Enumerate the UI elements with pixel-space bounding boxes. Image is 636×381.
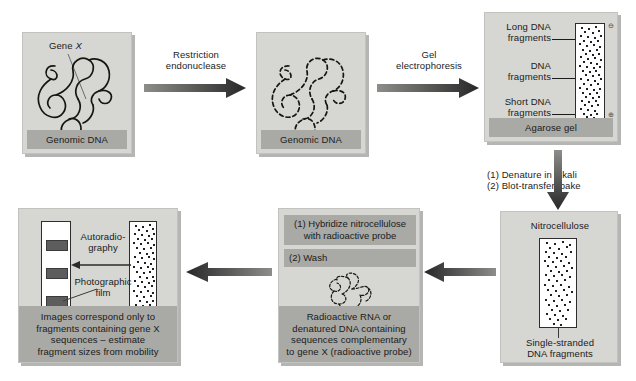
panel-agarose-gel-caption: Agarose gel [489,118,613,138]
autorad-band-2 [46,268,68,279]
label-dna-line1: DNA [489,60,551,71]
autorad-caption-line3: sequences – estimate [22,334,174,346]
panel-genomic-dna: Gene X Genomic DNA [22,32,132,154]
figure-southern-blot: Gene X Genomic DNA Restriction endonucle… [0,0,636,381]
label-long-dna-line2: fragments [489,32,551,43]
panel-digested-dna: Genomic DNA [256,32,366,154]
arrow-restriction-label-line2: endonuclease [148,60,244,71]
nitrocellulose-title: Nitrocellulose [501,220,619,231]
label-long-dna-fragments: Long DNA fragments [489,21,551,43]
arrow-blot [547,150,571,212]
arrow-electrophoresis [377,78,481,100]
hybridize-step2: (2) Wash [284,249,416,267]
hybridize-step1-line1: (1) Hybridize nitrocellulose [289,218,411,230]
leader-short-dna [552,114,575,115]
electrode-negative-icon: ⊖ [608,22,614,29]
label-single-stranded-dna: Single-stranded DNA fragments [501,337,619,359]
panel-hybridize-caption: Radioactive RNA or denatured DNA contain… [279,306,419,362]
nitrocellulose-lane [539,238,577,328]
autorad-caption-line1: Images correspond only to [22,311,174,323]
panel-agarose-gel: Long DNA fragments DNA fragments Short D… [484,12,618,142]
panel-autoradiography: Autoradio- graphy Photographic film Imag… [18,208,178,363]
label-short-dna-line2: fragments [489,107,551,118]
label-photographic-film-line1: Photographic [73,276,133,287]
label-dna-line2: fragments [489,71,551,82]
arrow-to-hybridize [424,262,496,284]
hybridize-step1: (1) Hybridize nitrocellulose with radioa… [284,215,416,245]
panel-genomic-dna-caption: Genomic DNA [27,130,127,150]
agarose-gel-lane [575,23,605,119]
panel-digested-dna-caption: Genomic DNA [261,130,361,150]
hybridize-step1-line2: with radioactive probe [289,230,411,242]
hybridize-caption-line1: Radioactive RNA or [282,311,416,323]
arrow-exposure [71,259,131,273]
label-autoradiography-line1: Autoradio- [75,231,131,242]
hybridize-caption-line2: denatured DNA containing [282,323,416,335]
arrow-restriction-label-line1: Restriction [148,49,244,60]
leader-long-dna [552,39,575,40]
label-single-stranded-line1: Single-stranded [501,337,619,348]
autorad-caption-line2: fragments containing gene X [22,323,174,335]
hybridize-caption-line4: to gene X (radioactive probe) [282,346,416,358]
autorad-band-1 [46,240,68,251]
label-long-dna-line1: Long DNA [489,21,551,32]
label-single-stranded-line2: DNA fragments [501,348,619,359]
arrow-restriction [144,78,248,100]
panel-hybridize: (1) Hybridize nitrocellulose with radioa… [278,208,420,363]
arrow-to-autoradiography [186,262,272,284]
autorad-blot-lane [129,221,157,319]
label-autoradiography: Autoradio- graphy [75,231,131,253]
label-dna-fragments: DNA fragments [489,60,551,82]
autorad-caption-line4: fragment sizes from mobility [22,346,174,358]
panel-autoradiography-caption: Images correspond only to fragments cont… [19,306,177,362]
panel-nitrocellulose: Nitrocellulose [500,211,618,363]
arrow-electrophoresis-label-line2: electrophoresis [381,60,477,71]
dna-smear-blot [540,239,577,328]
dna-smear-autorad [130,222,157,319]
label-short-dna-line1: Short DNA [489,96,551,107]
leader-photographic-film [59,287,99,305]
label-short-dna-fragments: Short DNA fragments [489,96,551,118]
hybridize-caption-line3: sequences complementary [282,334,416,346]
arrow-electrophoresis-label: Gel electrophoresis [381,49,477,71]
leader-dna [552,78,575,79]
arrow-restriction-label: Restriction endonuclease [148,49,244,71]
label-autoradiography-line2: graphy [75,242,131,253]
dna-smear-gel [576,24,605,119]
arrow-electrophoresis-label-line1: Gel [381,49,477,60]
